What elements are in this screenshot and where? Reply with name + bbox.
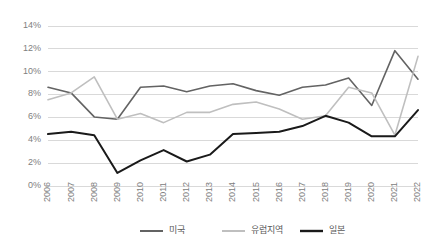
- x-axis-tick-label: 2016: [274, 182, 284, 202]
- legend-group: 미국유럽지역일본: [140, 225, 345, 235]
- y-axis-labels-group: 14%12%10%8%6%4%2%0%: [23, 20, 41, 190]
- x-axis-tick-label: 2007: [66, 182, 76, 202]
- x-axis-tick-label: 2019: [343, 182, 353, 202]
- x-axis-tick-label: 2008: [89, 182, 99, 202]
- y-axis-tick-label: 12%: [23, 43, 41, 53]
- x-axis-tick-label: 2011: [158, 182, 168, 201]
- x-axis-tick-label: 2021: [389, 182, 399, 202]
- x-axis-tick-label: 2022: [412, 182, 422, 202]
- y-axis-tick-label: 4%: [28, 134, 41, 144]
- x-axis-tick-label: 2012: [181, 182, 191, 202]
- y-axis-tick-label: 6%: [28, 111, 41, 121]
- line-chart: 14%12%10%8%6%4%2%0% 20062007200820092010…: [0, 0, 433, 249]
- x-axis-tick-label: 2020: [366, 182, 376, 202]
- x-axis-tick-label: 2014: [227, 182, 237, 202]
- x-axis-tick-label: 2013: [204, 182, 214, 202]
- x-axis-tick-label: 2017: [297, 182, 307, 202]
- x-axis-tick-label: 2018: [320, 182, 330, 202]
- y-axis-tick-label: 14%: [23, 20, 41, 30]
- x-axis-tick-label: 2009: [112, 182, 122, 202]
- chart-container: 14%12%10%8%6%4%2%0% 20062007200820092010…: [0, 0, 433, 249]
- legend-label-2: 일본: [329, 225, 345, 235]
- series-line-0: [48, 51, 418, 120]
- legend-label-0: 미국: [169, 225, 185, 235]
- x-axis-labels-group: 2006200720082009201020112012201320142015…: [42, 182, 422, 202]
- y-axis-tick-label: 2%: [28, 157, 41, 167]
- y-axis-tick-label: 10%: [23, 66, 41, 76]
- legend-label-1: 유럽지역: [251, 225, 283, 235]
- y-axis-tick-label: 8%: [28, 88, 41, 98]
- y-axis-tick-label: 0%: [28, 180, 41, 190]
- x-axis-tick-label: 2010: [135, 182, 145, 202]
- x-axis-tick-label: 2006: [42, 182, 52, 202]
- x-axis-tick-label: 2015: [251, 182, 261, 202]
- series-line-1: [48, 56, 418, 135]
- series-lines-group: [48, 51, 418, 173]
- gridlines-group: [48, 27, 418, 187]
